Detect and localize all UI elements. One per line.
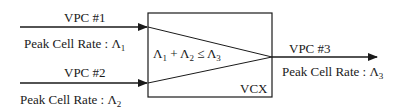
vpc2-label: VPC #2: [64, 66, 106, 79]
lambda-symbol: Λ: [111, 36, 120, 51]
lambda-symbol: Λ: [369, 64, 378, 79]
lambda-symbol: Λ: [180, 46, 189, 61]
rate-label: Peak Cell Rate :: [20, 92, 107, 107]
le-sign: ≤: [194, 46, 207, 61]
rate-label: Peak Cell Rate :: [282, 64, 369, 79]
vpc3-label: VPC #3: [289, 42, 331, 55]
vpc2-rate: Peak Cell Rate : Λ2: [20, 93, 121, 109]
lambda-subscript: 3: [379, 71, 384, 81]
lambda-subscript: 1: [121, 43, 126, 53]
lambda-symbol: Λ: [107, 92, 116, 107]
lambda-symbol: Λ: [207, 46, 216, 61]
rate-label: Peak Cell Rate :: [24, 36, 111, 51]
vpc3-rate: Peak Cell Rate : Λ3: [282, 65, 383, 81]
vcx-label: VCX: [240, 82, 267, 95]
capacity-condition: Λ1 + Λ2 ≤ Λ3: [153, 47, 221, 63]
lambda-subscript: 3: [216, 53, 221, 63]
vpc1-rate: Peak Cell Rate : Λ1: [24, 37, 125, 53]
plus-sign: +: [167, 46, 180, 61]
lambda-subscript: 2: [117, 99, 122, 109]
vpc1-label: VPC #1: [64, 11, 106, 24]
